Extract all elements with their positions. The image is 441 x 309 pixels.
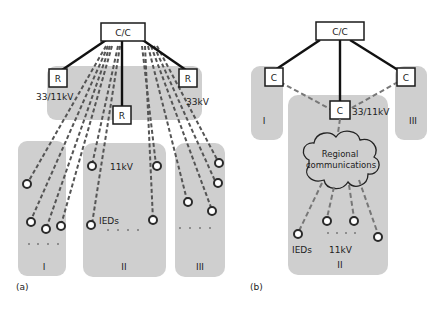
svg-text:C: C	[337, 106, 343, 116]
voltage-label-33-11kv: 33/11kV	[36, 92, 74, 102]
region-label-i-b: I	[263, 116, 266, 126]
region-label-i: I	[43, 262, 46, 272]
svg-text:R: R	[55, 74, 61, 84]
caption-b: (b)	[250, 282, 263, 292]
svg-text:R: R	[119, 111, 125, 121]
cloud-label-line2: communications	[306, 160, 377, 170]
diagram-canvas: C/C R R R 33/11kV 33kV	[0, 0, 441, 309]
svg-text:R: R	[185, 74, 191, 84]
region-i-area	[18, 141, 66, 276]
ieds-label-b: IEDs	[292, 245, 312, 255]
link-cc-c-left	[275, 40, 320, 70]
region-label-iii-b: III	[409, 116, 417, 126]
concentrator-node-center: C	[330, 101, 350, 119]
rtu-node-center: R	[113, 106, 131, 124]
voltage-label-33kv: 33kV	[186, 97, 210, 107]
voltage-label-11kv: 11kV	[110, 162, 134, 172]
control-center-label: C/C	[115, 28, 131, 38]
rtu-node-left: R	[49, 69, 67, 87]
control-center-label-b: C/C	[332, 27, 348, 37]
diagram-a: C/C R R R 33/11kV 33kV	[16, 23, 225, 292]
svg-text:C: C	[271, 73, 277, 83]
rtu-node-right: R	[179, 69, 197, 87]
link-cc-c-right	[350, 40, 398, 70]
voltage-label-11kv-b: 11kV	[329, 245, 353, 255]
concentrator-node-right: C	[397, 68, 415, 86]
diagram-b: C/C C C C 33/11kV Regional communication…	[250, 22, 427, 292]
region-label-ii: II	[121, 262, 126, 272]
control-center-node: C/C	[101, 23, 145, 41]
caption-a: (a)	[16, 282, 29, 292]
voltage-label-33-11kv-b: 33/11kV	[352, 107, 390, 117]
concentrator-node-left: C	[265, 68, 283, 86]
region-label-iii: III	[196, 262, 204, 272]
svg-text:C: C	[403, 73, 409, 83]
region-label-ii-b: II	[337, 260, 342, 270]
control-center-node-b: C/C	[316, 22, 364, 40]
cloud-label-line1: Regional	[322, 149, 359, 159]
ieds-label: IEDs	[99, 216, 119, 226]
